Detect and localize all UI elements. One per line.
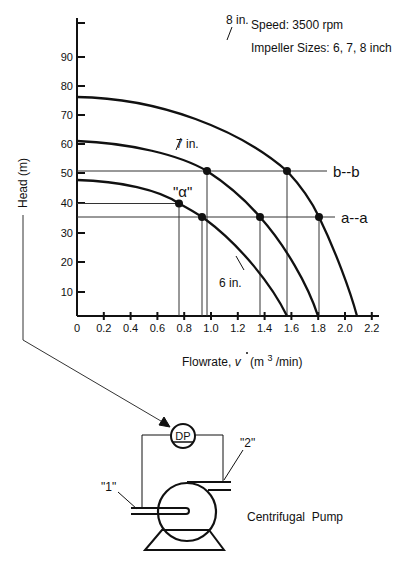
- pump-casing: [158, 483, 216, 541]
- point-8in-a: [315, 213, 323, 221]
- x-tick-0.6: 0.6: [150, 322, 165, 334]
- x-title-units-close: /min): [276, 355, 303, 369]
- dp-line-2: [195, 435, 223, 482]
- y-tick-50: 50: [61, 167, 73, 179]
- point-7in-b: [203, 167, 211, 175]
- x-tick-1.4: 1.4: [257, 322, 272, 334]
- x-tick-0.2: 0.2: [96, 322, 111, 334]
- y-tick-60: 60: [61, 138, 73, 150]
- point-2-label: "2": [240, 436, 255, 450]
- reference-lines: [77, 171, 335, 316]
- arrow-head-icon: [159, 417, 170, 427]
- pump-diagram: [118, 424, 243, 550]
- point-7in-a: [256, 213, 264, 221]
- x-tick-1.2: 1.2: [230, 322, 245, 334]
- x-tick-0.8: 0.8: [177, 322, 192, 334]
- label-alpha: "α": [173, 183, 192, 200]
- x-title-units-open: (m: [250, 355, 264, 369]
- x-tick-0: 0: [74, 322, 80, 334]
- inlet-pipe: [131, 508, 189, 514]
- pump-curve-figure: 90 80 70 60 50 40 30 20 10 0 0.2 0.4 0.6…: [0, 0, 415, 564]
- y-tick-10: 10: [61, 286, 73, 298]
- point-8in-b: [283, 167, 291, 175]
- y-tick-70: 70: [61, 109, 73, 121]
- pump-label: Centrifugal Pump: [247, 510, 343, 524]
- point-1-label: "1": [101, 480, 116, 494]
- svg-text:Flowrate, v (m: Flowrate, v (m 3 /min): [182, 350, 302, 369]
- label-b-b: b--b: [333, 163, 360, 180]
- point-6in-a: [198, 213, 206, 221]
- x-tick-0.4: 0.4: [123, 322, 138, 334]
- label-a-a: a--a: [341, 209, 368, 226]
- point-alpha: [175, 200, 183, 208]
- y-tick-40: 40: [61, 197, 73, 209]
- y-tick-20: 20: [61, 256, 73, 268]
- x-tick-1.8: 1.8: [311, 322, 326, 334]
- x-tick-2.2: 2.2: [364, 322, 379, 334]
- y-tick-labels: 90 80 70 60 50 40 30 20 10: [61, 51, 73, 298]
- label-8in: 8 in.: [226, 13, 249, 27]
- curve-6in: [77, 180, 287, 316]
- curve-8in: [77, 97, 357, 316]
- x-title-var: v: [235, 355, 242, 369]
- impeller-annotation: Impeller Sizes: 6, 7, 8 inch: [251, 41, 392, 55]
- y-ticks: [77, 23, 85, 292]
- y-tick-80: 80: [61, 80, 73, 92]
- x-tick-1.0: 1.0: [203, 322, 218, 334]
- dp-line-1: [142, 435, 171, 508]
- x-title-sup: 3: [267, 353, 272, 363]
- label-7in: 7 in.: [176, 137, 199, 151]
- y-tick-90: 90: [61, 51, 73, 63]
- dp-label: DP: [175, 430, 190, 442]
- y-tick-30: 30: [61, 227, 73, 239]
- pump-curves: [77, 97, 357, 316]
- label-6in: 6 in.: [219, 276, 242, 290]
- y-axis-title: Head (m): [16, 158, 30, 208]
- x-tick-labels: 0 0.2 0.4 0.6 0.8 1.0 1.2 1.4 1.6 1.8 2.…: [74, 322, 380, 334]
- x-title-main: Flowrate,: [182, 355, 235, 369]
- head-leader: [23, 215, 170, 427]
- x-axis-title: Flowrate, v (m 3 /min): [182, 350, 302, 369]
- x-tick-1.6: 1.6: [284, 322, 299, 334]
- speed-annotation: Speed: 3500 rpm: [251, 18, 343, 32]
- x-tick-2.0: 2.0: [337, 322, 352, 334]
